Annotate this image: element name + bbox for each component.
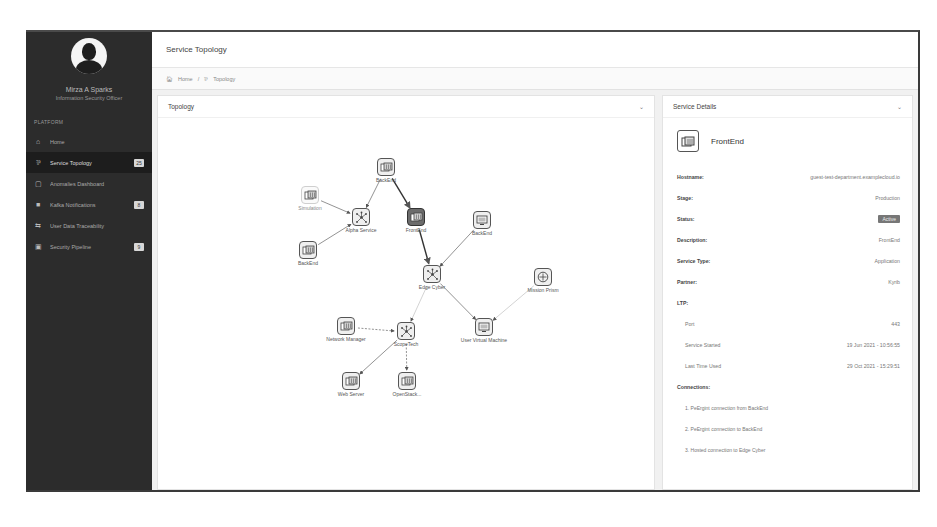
partner-row: Partner:Kyrib: [677, 271, 900, 292]
field-label: Service Started: [685, 342, 720, 348]
target-icon: [534, 268, 552, 286]
home-icon[interactable]: 🏠︎: [166, 76, 173, 82]
topology-node-openstack[interactable]: OpenStack...: [377, 372, 437, 397]
user-name: Mirza A Sparks: [66, 86, 113, 93]
partner-value: Kyrib: [888, 279, 900, 285]
breadcrumb-home[interactable]: Home: [178, 76, 193, 82]
connections-row: Connections:: [677, 376, 900, 397]
sidebar-item-security-pipeline[interactable]: ▣ Security Pipeline 9: [26, 236, 152, 257]
field-label: Hostname:: [677, 174, 704, 180]
connection-item[interactable]: 2. PeErgint connection to BackEnd: [677, 418, 900, 439]
panel-title: Topology: [168, 103, 194, 110]
sidebar-item-home[interactable]: ⌂ Home: [26, 131, 152, 152]
server-icon: [342, 372, 360, 390]
sidebar-item-label: Security Pipeline: [50, 244, 134, 250]
status-badge: Active: [878, 215, 900, 223]
connection-item[interactable]: 3. Hosted connection to Edge Cyber: [677, 439, 900, 460]
topology-node-edge-cyber[interactable]: Edge Cyber: [402, 265, 462, 290]
topology-node-web-server[interactable]: Web Server: [321, 372, 381, 397]
top-bar: Service Topology: [152, 32, 918, 68]
graph-edge: [411, 286, 427, 321]
graph-edge: [406, 344, 407, 370]
topology-node-alpha[interactable]: Alpha Service: [331, 208, 391, 233]
sidebar-item-kafka-notifications[interactable]: ■ Kafka Notifications 8: [26, 194, 152, 215]
node-label: BackEnd: [472, 230, 492, 236]
count-badge: 9: [134, 243, 144, 251]
node-label: ScopeTech: [394, 341, 419, 347]
graph-edge: [419, 230, 429, 264]
topology-node-frontend[interactable]: FrontEnd: [386, 208, 446, 233]
node-label: User Virtual Machine: [461, 337, 507, 343]
ltp-row: LTP:: [677, 292, 900, 313]
topology-node-backend-right[interactable]: BackEnd: [452, 211, 512, 236]
trace-icon: ⇆: [34, 222, 42, 230]
sidebar-item-service-topology[interactable]: ⅌ Service Topology 25: [26, 152, 152, 173]
node-label: Edge Cyber: [419, 284, 445, 290]
sidebar: Mirza A Sparks Information Security Offi…: [26, 32, 152, 490]
app-window: Mirza A Sparks Information Security Offi…: [26, 30, 920, 492]
node-label: Alpha Service: [346, 227, 377, 233]
topology-panel-header: Topology ⌄: [158, 96, 654, 118]
hub-icon: [352, 208, 370, 226]
node-label: Mission Prism: [527, 287, 558, 293]
hostname-value: guest-test-department.examplecloud.io: [810, 174, 900, 180]
field-label: Description:: [677, 237, 707, 243]
field-label: LTP:: [677, 300, 688, 306]
last-used-value: 29 Oct 2021 - 15:29:51: [847, 363, 900, 369]
topology-graph[interactable]: BackEndSimulationAlpha ServiceFrontEndBa…: [158, 118, 654, 489]
count-badge: 8: [134, 201, 144, 209]
topology-node-backend-left[interactable]: BackEnd: [278, 241, 338, 266]
monitor-icon: [473, 211, 491, 229]
field-label: Port: [685, 321, 695, 327]
sidebar-item-anomalies-dashboard[interactable]: ▢ Anomalies Dashboard: [26, 173, 152, 194]
breadcrumb-separator: /: [198, 76, 200, 82]
topology-node-scope-tech[interactable]: ScopeTech: [376, 322, 436, 347]
count-badge: 25: [134, 159, 144, 167]
sidebar-item-label: Kafka Notifications: [50, 202, 134, 208]
field-label: Last Time Used: [685, 363, 721, 369]
service-started-row: Service Started19 Jun 2021 - 10:56:55: [677, 334, 900, 355]
service-details-panel: Service Details ⌄ FrontEnd Hostname:gues…: [662, 95, 913, 490]
server-icon: [677, 130, 699, 152]
port-row: Port443: [677, 313, 900, 334]
status-row: Status:Active: [677, 208, 900, 229]
node-label: BackEnd: [376, 177, 396, 183]
graph-edge: [366, 179, 380, 208]
monitor-icon: [475, 318, 493, 336]
service-type-value: Application: [875, 258, 900, 264]
last-used-row: Last Time Used29 Oct 2021 - 15:29:51: [677, 355, 900, 376]
page-title: Service Topology: [166, 45, 227, 54]
chevron-down-icon[interactable]: ⌄: [639, 103, 644, 110]
bell-icon: ■: [34, 201, 42, 209]
home-icon: ⌂: [34, 138, 42, 146]
panel-title: Service Details: [673, 103, 716, 110]
topology-node-network-manager[interactable]: Network Manager: [316, 317, 376, 342]
server-icon: [377, 158, 395, 176]
service-header: FrontEnd: [677, 130, 900, 152]
node-label: Web Server: [338, 391, 364, 397]
content: Topology ⌄ BackEndSimulationAlpha Servic…: [152, 90, 918, 490]
server-icon: [398, 372, 416, 390]
node-label: OpenStack...: [393, 391, 422, 397]
description-row: Description:FrontEnd: [677, 229, 900, 250]
breadcrumb-current: Topology: [213, 76, 235, 82]
server-icon: [337, 317, 355, 335]
stage-row: Stage:Production: [677, 187, 900, 208]
connection-item[interactable]: 1. PeErgint connection from BackEnd: [677, 397, 900, 418]
sidebar-item-user-data-traceability[interactable]: ⇆ User Data Traceability: [26, 215, 152, 236]
field-label: Stage:: [677, 195, 693, 201]
field-label: Partner:: [677, 279, 697, 285]
avatar[interactable]: [71, 38, 107, 74]
hostname-row: Hostname:guest-test-department.examplecl…: [677, 166, 900, 187]
topology-node-mission-prism[interactable]: Mission Prism: [513, 268, 573, 293]
sidebar-item-label: User Data Traceability: [50, 223, 144, 229]
sidebar-nav: ⌂ Home ⅌ Service Topology 25 ▢ Anomalies…: [26, 131, 152, 257]
service-type-row: Service Type:Application: [677, 250, 900, 271]
stage-value: Production: [875, 195, 900, 201]
hub-icon: [423, 265, 441, 283]
topology-node-user-vm[interactable]: User Virtual Machine: [454, 318, 514, 343]
chevron-down-icon[interactable]: ⌄: [897, 103, 902, 110]
topology-panel: Topology ⌄ BackEndSimulationAlpha Servic…: [157, 95, 655, 490]
topology-node-backend-top[interactable]: BackEnd: [356, 158, 416, 183]
server-icon: [301, 186, 319, 204]
